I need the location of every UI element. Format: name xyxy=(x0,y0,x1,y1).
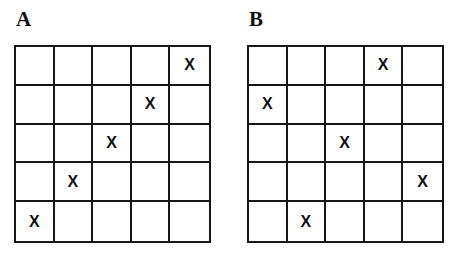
grid-cell[interactable]: X xyxy=(288,86,327,125)
grid-cell[interactable]: X xyxy=(288,163,327,202)
grid-cell[interactable]: X xyxy=(288,47,327,86)
grid-cell[interactable]: X xyxy=(365,86,404,125)
x-mark: X xyxy=(339,135,350,151)
x-mark: X xyxy=(378,57,389,73)
grid-cell[interactable]: X xyxy=(365,125,404,164)
panel-a-label: A xyxy=(16,6,32,32)
x-mark: X xyxy=(106,135,117,151)
grid-cell[interactable]: X xyxy=(365,202,404,241)
grid-cell[interactable]: X xyxy=(132,86,171,125)
grid-cell[interactable]: X xyxy=(170,125,209,164)
grid-cell[interactable]: X xyxy=(403,202,442,241)
x-mark: X xyxy=(145,96,156,112)
grid-cell[interactable]: X xyxy=(93,163,132,202)
grid-cell[interactable]: X xyxy=(249,163,288,202)
grid-cell[interactable]: X xyxy=(170,163,209,202)
grid-b: XXXXXXXXXXXXXXXXXXXXXXXXX xyxy=(247,45,444,243)
grid-cell[interactable]: X xyxy=(93,202,132,241)
grid-cell[interactable]: X xyxy=(249,125,288,164)
grid-cell[interactable]: X xyxy=(16,125,55,164)
grid-cell[interactable]: X xyxy=(16,163,55,202)
grid-cell[interactable]: X xyxy=(55,47,94,86)
grid-cell[interactable]: X xyxy=(55,125,94,164)
grid-cell[interactable]: X xyxy=(403,125,442,164)
grid-cell[interactable]: X xyxy=(132,202,171,241)
panel-b-label: B xyxy=(249,6,264,32)
x-mark: X xyxy=(301,214,312,230)
grid-cell[interactable]: X xyxy=(93,86,132,125)
grid-cell[interactable]: X xyxy=(132,125,171,164)
grid-cell[interactable]: X xyxy=(326,125,365,164)
grid-cell[interactable]: X xyxy=(288,202,327,241)
grid-cell[interactable]: X xyxy=(16,86,55,125)
x-mark: X xyxy=(68,174,79,190)
grid-cell[interactable]: X xyxy=(170,202,209,241)
grid-cell[interactable]: X xyxy=(326,202,365,241)
grid-cell[interactable]: X xyxy=(403,86,442,125)
grid-cell[interactable]: X xyxy=(365,163,404,202)
grid-cell[interactable]: X xyxy=(55,202,94,241)
grid-cell[interactable]: X xyxy=(249,86,288,125)
grid-cell[interactable]: X xyxy=(249,47,288,86)
grid-cell[interactable]: X xyxy=(403,47,442,86)
grid-cell[interactable]: X xyxy=(326,163,365,202)
grid-cell[interactable]: X xyxy=(249,202,288,241)
two-grid-figure: A XXXXXXXXXXXXXXXXXXXXXXXXX B XXXXXXXXXX… xyxy=(0,0,453,263)
x-mark: X xyxy=(29,214,40,230)
grid-cell[interactable]: X xyxy=(288,125,327,164)
grid-cell[interactable]: X xyxy=(326,86,365,125)
grid-cell[interactable]: X xyxy=(93,125,132,164)
grid-a: XXXXXXXXXXXXXXXXXXXXXXXXX xyxy=(14,45,211,243)
x-mark: X xyxy=(262,96,273,112)
x-mark: X xyxy=(184,57,195,73)
grid-cell[interactable]: X xyxy=(365,47,404,86)
grid-cell[interactable]: X xyxy=(132,47,171,86)
grid-cell[interactable]: X xyxy=(132,163,171,202)
grid-cell[interactable]: X xyxy=(403,163,442,202)
grid-cell[interactable]: X xyxy=(55,163,94,202)
grid-cell[interactable]: X xyxy=(16,202,55,241)
grid-cell[interactable]: X xyxy=(55,86,94,125)
grid-cell[interactable]: X xyxy=(170,47,209,86)
grid-cell[interactable]: X xyxy=(93,47,132,86)
grid-cell[interactable]: X xyxy=(326,47,365,86)
grid-cell[interactable]: X xyxy=(170,86,209,125)
grid-cell[interactable]: X xyxy=(16,47,55,86)
x-mark: X xyxy=(417,174,428,190)
